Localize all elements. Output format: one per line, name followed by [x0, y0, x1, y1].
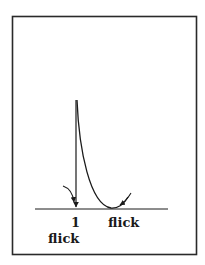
- left-curved-arrow-icon: [63, 186, 74, 202]
- flick-diagram: 1 flick flick: [0, 0, 205, 265]
- label-right-flick: flick: [108, 215, 140, 230]
- right-curved-arrow-icon: [120, 193, 131, 205]
- diagram-frame: [13, 17, 197, 255]
- label-under-flick: flick: [48, 231, 80, 246]
- label-count: 1: [71, 215, 80, 230]
- decay-curve: [77, 100, 128, 208]
